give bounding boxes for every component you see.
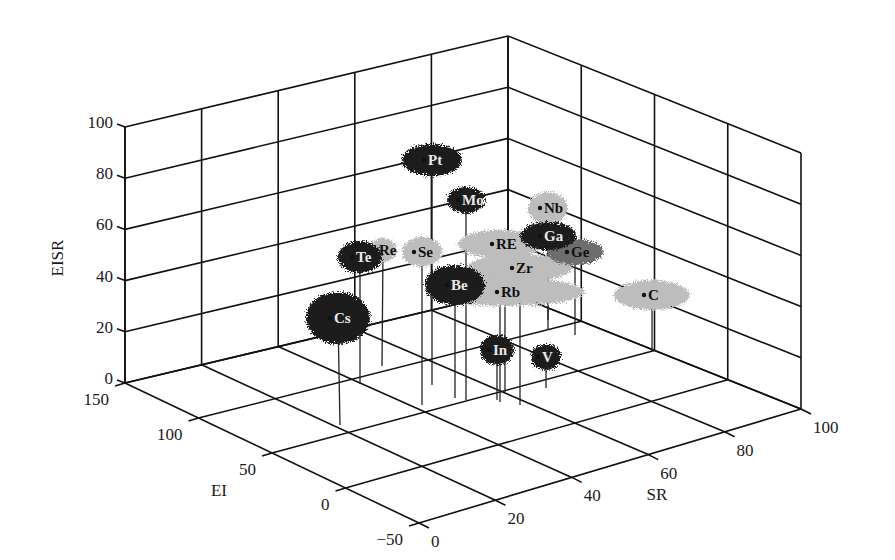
tick-mark (117, 124, 125, 127)
point-marker (538, 234, 542, 238)
point-marker (487, 348, 491, 352)
point-label: Te (356, 249, 372, 265)
point-marker (642, 293, 646, 297)
tick-mark (409, 523, 419, 526)
z-tick-label: 100 (88, 113, 114, 132)
point-marker (412, 250, 416, 254)
point-label: C (648, 287, 659, 303)
point-label: RE (496, 236, 517, 252)
point-marker (538, 206, 542, 210)
z-tick-label: 40 (96, 267, 113, 286)
tick-mark (419, 523, 429, 528)
z-tick-label: 60 (96, 215, 113, 234)
y-tick-label: 0 (321, 495, 330, 514)
tick-mark (648, 455, 658, 460)
y-tick-label: 150 (84, 390, 110, 409)
x-tick-label: 0 (431, 532, 440, 551)
point-mo: Mo (447, 187, 485, 213)
point-be: Be (425, 265, 485, 305)
point-marker (490, 242, 494, 246)
grid-line (419, 409, 801, 523)
point-label: In (493, 342, 508, 358)
point-label: Be (451, 277, 468, 293)
scatter3d-chart: NbREReSeZrRbCGePtMoGaTeBeCsInV 020406080… (0, 0, 895, 560)
point-nb: Nb (528, 192, 568, 224)
y-tick-label: 50 (239, 460, 256, 479)
x-tick-label: 40 (584, 486, 601, 505)
z-tick-label: 80 (96, 164, 113, 183)
x-tick-label: 60 (660, 464, 677, 483)
z-axis-label: EISR (48, 239, 67, 277)
point-label: Mo (462, 192, 484, 208)
point-marker (510, 266, 514, 270)
grid-line (199, 321, 582, 418)
point-marker (495, 290, 499, 294)
tick-mark (262, 453, 272, 456)
point-label: Pt (428, 152, 442, 168)
point-label: Zr (516, 260, 533, 276)
point-label: Nb (544, 200, 563, 216)
grid-line (125, 36, 508, 127)
point-label: Se (418, 244, 433, 260)
point-c: C (614, 280, 690, 310)
x-tick-label: 20 (507, 509, 524, 528)
point-te: Te (338, 241, 382, 273)
point-label: Ga (544, 228, 564, 244)
point-marker (456, 198, 460, 202)
point-pt: Pt (402, 144, 462, 176)
point-ga: Ga (520, 222, 576, 250)
point-marker (565, 250, 569, 254)
tick-mark (115, 383, 125, 386)
point-in: In (480, 335, 514, 365)
tick-mark (117, 175, 125, 178)
point-marker (422, 158, 426, 162)
tick-mark (801, 409, 811, 414)
point-label: V (542, 349, 553, 365)
point-label: Cs (334, 310, 351, 326)
x-tick-label: 80 (737, 441, 754, 460)
y-tick-label: 100 (157, 425, 183, 444)
y-axis-label: EI (211, 481, 227, 500)
tick-mark (336, 488, 346, 491)
x-tick-label: 100 (813, 418, 839, 437)
data-points: NbREReSeZrRbCGePtMoGaTeBeCsInV (306, 144, 690, 370)
point-marker (350, 255, 354, 259)
point-cs: Cs (306, 292, 370, 344)
point-label: Ge (571, 244, 590, 260)
z-tick-label: 20 (96, 318, 113, 337)
tick-mark (189, 418, 199, 421)
y-tick-label: −50 (376, 530, 403, 549)
tick-labels: 020406080100−50050100150020406080100 (84, 113, 839, 551)
tick-mark (117, 226, 125, 229)
grid-line (272, 351, 655, 454)
point-marker (445, 283, 449, 287)
tick-mark (572, 477, 582, 482)
drop-line-re (382, 250, 383, 366)
x-axis-label: SR (647, 485, 668, 504)
point-v: V (531, 344, 561, 370)
tick-mark (117, 278, 125, 281)
tick-mark (495, 500, 505, 505)
tick-mark (117, 329, 125, 332)
point-marker (328, 316, 332, 320)
z-tick-label: 0 (105, 369, 114, 388)
point-se: Se (402, 237, 442, 267)
tick-mark (725, 432, 735, 437)
point-label: Rb (501, 284, 520, 300)
point-marker (536, 355, 540, 359)
